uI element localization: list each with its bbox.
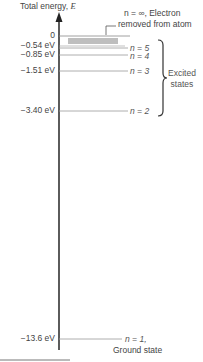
infinity-leader-line	[106, 26, 116, 35]
excited-states-bracket	[158, 40, 167, 116]
state-label-n3: n = 3	[130, 66, 149, 76]
axis-title: Total energy, E	[20, 1, 76, 11]
state-label-n2: n = 2	[130, 106, 149, 116]
excited-states-label: Excited states	[168, 68, 196, 90]
energy-label-n1: −13.6 eV	[0, 333, 55, 343]
energy-label-n4: −0.85 eV	[0, 49, 55, 59]
infinity-note-line1: n = ∞, Electron	[124, 8, 180, 18]
state-label-n4: n = 4	[130, 51, 149, 61]
energy-label-n3: −1.51 eV	[0, 65, 55, 75]
excited-line2: states	[168, 79, 196, 90]
infinity-note-line2: removed from atom	[118, 19, 192, 29]
axis-arrowhead-icon	[56, 12, 63, 22]
energy-label-0: 0	[0, 30, 55, 40]
ground-state-label: Ground state	[113, 345, 162, 355]
excited-line1: Excited	[168, 68, 196, 79]
energy-label-n2: −3.40 eV	[0, 105, 55, 115]
state-label-n1: n = 1,	[125, 334, 147, 344]
